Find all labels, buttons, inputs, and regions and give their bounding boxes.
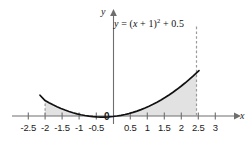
x-tick-label-1: 1 bbox=[145, 122, 150, 133]
x-axis-label: x bbox=[240, 110, 244, 121]
curve-equation-label: y = (x + 1)2 + 0.5 bbox=[114, 18, 184, 29]
equation-middle: + 1) bbox=[137, 18, 156, 29]
y-axis-arrowhead bbox=[110, 9, 117, 16]
graph-figure: y = (x + 1)2 + 0.5 y x 0 -2.5 -2 -1.5 -1… bbox=[0, 0, 250, 145]
origin-label: 0 bbox=[104, 111, 110, 122]
x-tick-label--1: -1 bbox=[75, 122, 83, 133]
x-tick-label-0.5: 0.5 bbox=[124, 122, 137, 133]
x-tick-label--2.5: -2.5 bbox=[21, 122, 37, 133]
equation-equals: = ( bbox=[119, 18, 133, 29]
y-axis-label: y bbox=[101, 6, 105, 17]
x-tick-label-2: 2 bbox=[179, 122, 184, 133]
x-tick-label--0.5: -0.5 bbox=[89, 122, 105, 133]
x-tick-label-3: 3 bbox=[213, 122, 218, 133]
x-tick-label--2: -2 bbox=[41, 122, 49, 133]
equation-tail: + 0.5 bbox=[160, 18, 184, 29]
x-tick-label--1.5: -1.5 bbox=[54, 122, 70, 133]
x-tick-label-2.5: 2.5 bbox=[192, 122, 205, 133]
x-tick-label-1.5: 1.5 bbox=[158, 122, 171, 133]
